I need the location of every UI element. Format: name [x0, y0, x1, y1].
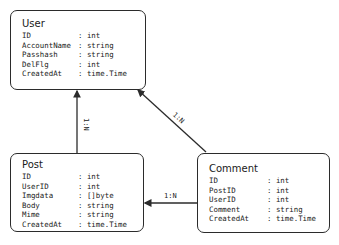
field-type: : int [78, 60, 100, 70]
field-type: : string [78, 201, 114, 211]
field-name: CreatedAt [209, 214, 267, 224]
cardinality-comment-post: 1:N [164, 192, 177, 200]
field-row: ID: int [22, 172, 143, 182]
field-name: CreatedAt [22, 220, 78, 230]
field-row: CreatedAt: time.Time [22, 220, 143, 230]
field-type: : int [78, 31, 100, 41]
field-name: Body [22, 201, 78, 211]
field-type: : int [267, 186, 289, 196]
cardinality-post-user: 1:N [82, 118, 90, 131]
field-row: PostID: int [209, 186, 329, 196]
field-row: UserID: int [209, 195, 329, 205]
entity-post[interactable]: Post ID: int UserID: int Imgdata: []byte… [10, 153, 144, 232]
field-type: : int [267, 195, 289, 205]
field-row: Imgdata: []byte [22, 191, 143, 201]
er-diagram: 1:N 1:N 1:N User ID: int AccountName: st… [0, 0, 339, 245]
field-type: : string [78, 210, 114, 220]
field-type: : int [267, 176, 289, 186]
entity-title: Comment [209, 163, 329, 175]
field-name: Comment [209, 205, 267, 215]
field-type: : time.Time [78, 69, 127, 79]
field-row: Passhash: string [22, 50, 145, 60]
field-type: : time.Time [78, 220, 127, 230]
field-type: : []byte [78, 191, 114, 201]
entity-comment[interactable]: Comment ID: int PostID: int UserID: int … [197, 153, 330, 233]
field-name: Mime [22, 210, 78, 220]
field-type: : time.Time [267, 214, 316, 224]
field-name: UserID [22, 182, 78, 192]
field-type: : string [78, 41, 114, 51]
entity-title: User [22, 18, 145, 30]
field-name: ID [209, 176, 267, 186]
field-name: AccountName [22, 41, 78, 51]
field-row: ID: int [22, 31, 145, 41]
field-name: CreatedAt [22, 69, 78, 79]
field-name: UserID [209, 195, 267, 205]
field-row: AccountName: string [22, 41, 145, 51]
field-type: : string [78, 50, 114, 60]
field-name: Passhash [22, 50, 78, 60]
field-name: DelFlg [22, 60, 78, 70]
entity-user[interactable]: User ID: int AccountName: string Passhas… [10, 10, 146, 90]
field-row: DelFlg: int [22, 60, 145, 70]
field-row: Body: string [22, 201, 143, 211]
field-name: ID [22, 172, 78, 182]
field-row: UserID: int [22, 182, 143, 192]
field-row: CreatedAt: time.Time [22, 69, 145, 79]
field-type: : int [78, 172, 100, 182]
entity-title: Post [22, 159, 143, 171]
field-row: CreatedAt: time.Time [209, 214, 329, 224]
field-type: : string [267, 205, 303, 215]
field-name: PostID [209, 186, 267, 196]
edge-comment-user [138, 90, 206, 152]
field-row: ID: int [209, 176, 329, 186]
field-type: : int [78, 182, 100, 192]
field-row: Comment: string [209, 205, 329, 215]
field-row: Mime: string [22, 210, 143, 220]
field-name: ID [22, 31, 78, 41]
field-name: Imgdata [22, 191, 78, 201]
